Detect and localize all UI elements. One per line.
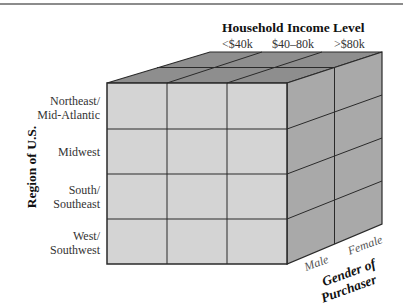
income-label-low: <$40k [222,37,253,51]
region-label-west: West/Southwest [0,229,100,257]
region-label-northeast: Northeast/Mid-Atlantic [0,94,100,122]
income-label-mid: $40–80k [272,37,314,51]
income-axis-title: Household Income Level [222,21,365,35]
region-axis-title: Region of U.S. [25,117,39,217]
region-label-midwest: Midwest [0,145,100,159]
income-label-high: >$80k [334,37,365,51]
region-label-south: South/Southeast [0,183,100,211]
